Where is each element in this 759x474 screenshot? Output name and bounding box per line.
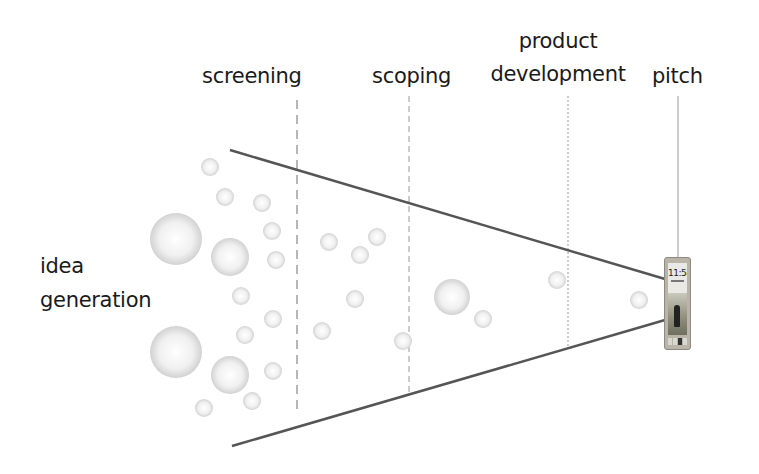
development-bubbles — [630, 291, 648, 309]
dog-silhouette-icon — [674, 305, 680, 327]
funnel-diagram — [0, 0, 759, 474]
dock-icon — [668, 338, 672, 345]
idea-bubbles — [150, 158, 285, 417]
phone-screen: 11:54 — [668, 263, 687, 335]
phone-dock — [668, 338, 687, 345]
phone-time: 11:54 — [668, 268, 687, 278]
phone-date-bar — [671, 280, 684, 282]
funnel-bottom-line — [232, 320, 665, 446]
screening-bubbles — [313, 228, 412, 350]
dock-icon — [678, 338, 682, 345]
funnel-top-line — [230, 150, 665, 279]
smartphone-icon: 11:54 — [664, 257, 691, 350]
dock-icon — [683, 338, 687, 345]
dock-icon — [673, 338, 677, 345]
scoping-bubbles — [434, 271, 566, 328]
